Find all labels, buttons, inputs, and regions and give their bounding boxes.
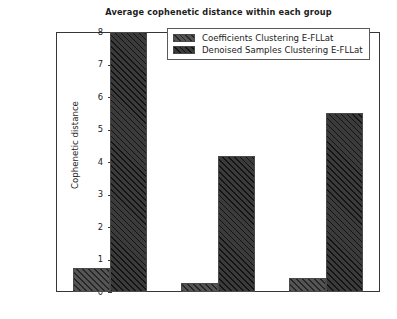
bar [110,32,147,292]
bar [289,278,326,292]
chart-legend: Coefficients Clustering E-FLLatDenoised … [167,28,370,60]
legend-label: Denoised Samples Clustering E-FLLat [202,45,363,55]
bars-layer [56,32,380,292]
legend-swatch [173,46,195,54]
legend-swatch [173,34,195,42]
legend-item: Coefficients Clustering E-FLLat [173,32,363,44]
bar [181,283,218,292]
legend-label: Coefficients Clustering E-FLLat [202,33,334,43]
y-tick-mark [108,292,112,293]
bar [73,268,110,292]
legend-item: Denoised Samples Clustering E-FLLat [173,44,363,56]
chart-figure: Average cophenetic distance within each … [0,0,397,319]
chart-title: Average cophenetic distance within each … [56,7,381,17]
bar [218,156,255,292]
bar [326,113,363,292]
